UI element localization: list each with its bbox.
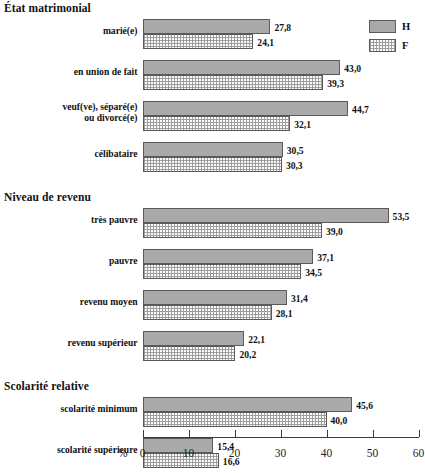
bar-h-2 — [143, 101, 349, 116]
category-label-5: pauvre — [109, 255, 138, 266]
category-label-line: en union de fait — [74, 66, 138, 77]
x-axis-tick-label-50: 50 — [353, 447, 393, 459]
value-label-h-4: 53,5 — [393, 211, 410, 222]
legend-swatch-H — [369, 20, 396, 33]
value-label-f-0: 24,1 — [257, 37, 274, 48]
bar-h-3 — [143, 142, 283, 157]
x-axis-tick-label-0: 0 — [123, 447, 163, 459]
value-label-f-7: 20,2 — [239, 349, 256, 360]
x-axis-tick-50 — [373, 430, 374, 437]
section-title-1: État matrimonial — [4, 2, 91, 14]
x-axis-tick-0 — [143, 430, 144, 437]
bar-f-4 — [143, 223, 322, 238]
x-axis-tick-label-30: 30 — [261, 447, 301, 459]
category-label-line: revenu supérieur — [68, 337, 138, 348]
category-label-1: en union de fait — [74, 66, 138, 77]
value-label-f-5: 34,5 — [305, 267, 322, 278]
bar-f-0 — [143, 34, 254, 49]
category-label-8: scolarité minimum — [60, 403, 137, 414]
x-axis-tick-label-20: 20 — [215, 447, 255, 459]
value-label-h-2: 44,7 — [352, 104, 369, 115]
legend-swatch-F — [369, 39, 396, 52]
bar-h-1 — [143, 60, 341, 75]
category-label-7: revenu supérieur — [68, 337, 138, 348]
category-label-line: revenu moyen — [80, 296, 138, 307]
bar-h-8 — [143, 397, 353, 412]
x-axis-unit-label: % — [118, 447, 128, 459]
bar-f-1 — [143, 75, 324, 90]
x-axis-tick-label-10: 10 — [169, 447, 209, 459]
x-axis-tick-label-40: 40 — [307, 447, 347, 459]
value-label-h-0: 27,8 — [274, 22, 291, 33]
bar-h-6 — [143, 290, 287, 305]
bar-h-0 — [143, 19, 271, 34]
bar-h-7 — [143, 331, 245, 346]
x-axis-tick-30 — [281, 430, 282, 437]
bar-f-3 — [143, 157, 282, 172]
value-label-h-6: 31,4 — [291, 293, 308, 304]
bar-f-5 — [143, 264, 302, 279]
category-label-2: veuf(ve), séparé(e)ou divorcé(e) — [62, 101, 137, 123]
category-label-line: scolarité minimum — [60, 403, 137, 414]
value-label-h-8: 45,6 — [356, 400, 373, 411]
category-label-line: ou divorcé(e) — [62, 112, 137, 123]
bar-f-6 — [143, 305, 272, 320]
value-label-h-7: 22,1 — [248, 334, 265, 345]
legend-label-F: F — [402, 40, 408, 51]
category-label-4: très pauvre — [91, 214, 137, 225]
bar-f-7 — [143, 346, 236, 361]
x-axis-line — [143, 437, 419, 438]
value-label-h-3: 30,5 — [287, 145, 304, 156]
x-axis-tick-40 — [327, 430, 328, 437]
value-label-f-4: 39,0 — [326, 226, 343, 237]
value-label-f-3: 30,3 — [286, 160, 303, 171]
section-title-3: Scolarité relative — [4, 380, 89, 392]
x-axis-tick-label-60: 60 — [399, 447, 425, 459]
category-label-0: marié(e) — [103, 25, 138, 36]
x-axis-tick-20 — [235, 430, 236, 437]
value-label-f-6: 28,1 — [276, 308, 293, 319]
x-axis-tick-60 — [419, 430, 420, 437]
bar-f-2 — [143, 116, 291, 131]
bar-h-4 — [143, 208, 389, 223]
section-title-2: Niveau de revenu — [4, 191, 91, 203]
category-label-line: marié(e) — [103, 25, 138, 36]
category-label-3: célibataire — [95, 148, 138, 159]
value-label-f-8: 40,0 — [331, 415, 348, 426]
legend-label-H: H — [402, 21, 410, 32]
category-label-line: célibataire — [95, 148, 138, 159]
grouped-bar-chart: État matrimonial27,824,1marié(e)43,039,3… — [0, 0, 425, 473]
value-label-f-1: 39,3 — [327, 78, 344, 89]
value-label-h-1: 43,0 — [344, 63, 361, 74]
bar-h-5 — [143, 249, 314, 264]
category-label-line: veuf(ve), séparé(e) — [62, 101, 137, 112]
category-label-line: très pauvre — [91, 214, 137, 225]
category-label-6: revenu moyen — [80, 296, 138, 307]
value-label-h-5: 37,1 — [317, 252, 334, 263]
bar-f-8 — [143, 412, 327, 427]
x-axis-tick-10 — [189, 430, 190, 437]
category-label-line: pauvre — [109, 255, 138, 266]
value-label-f-2: 32,1 — [294, 119, 311, 130]
